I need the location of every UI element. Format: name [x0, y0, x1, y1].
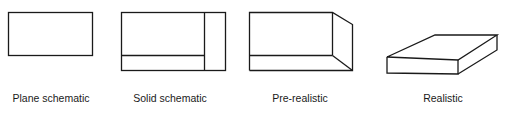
plane-schematic-shape: [9, 13, 93, 56]
label-plane-schematic: Plane schematic: [12, 92, 89, 104]
solid-schematic-shape: [122, 13, 226, 71]
label-realistic: Realistic: [423, 92, 463, 104]
realistic-shape: [387, 35, 497, 74]
label-solid-schematic: Solid schematic: [133, 92, 207, 104]
rendering-styles-diagram: Plane schematic Solid schematic Pre-real…: [0, 0, 505, 115]
pre-realistic-shape: [250, 13, 353, 71]
label-pre-realistic: Pre-realistic: [272, 92, 327, 104]
